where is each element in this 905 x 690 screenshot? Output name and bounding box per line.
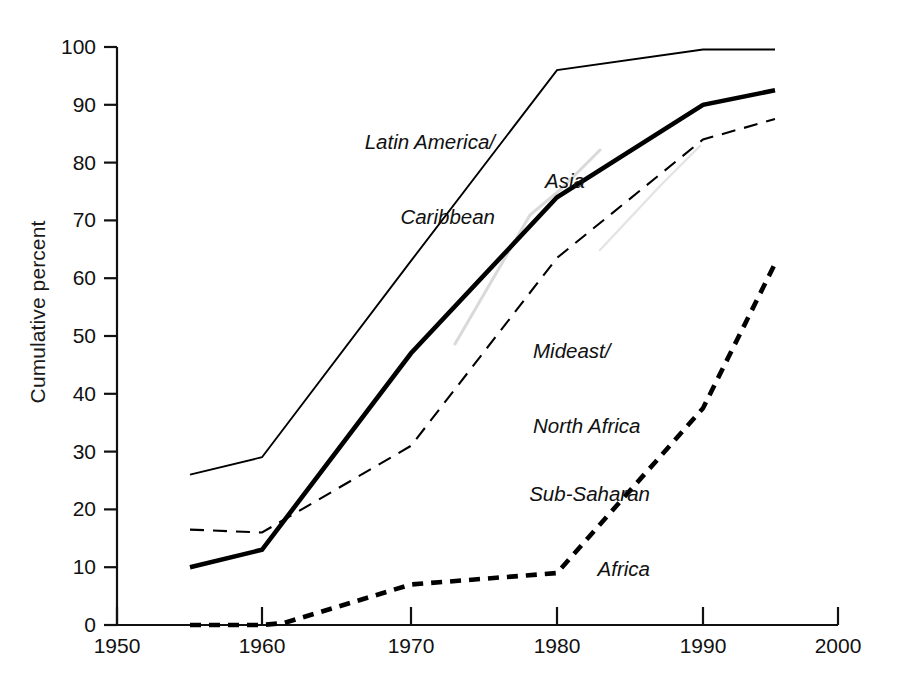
- series-label-asia: Asia: [545, 118, 665, 243]
- y-tick-label-30: 30: [44, 440, 96, 464]
- series-label-asia-line1: Asia: [545, 168, 665, 193]
- y-axis-ticks: [104, 47, 117, 625]
- y-tick-label-50: 50: [44, 324, 96, 348]
- y-tick-label-60: 60: [44, 266, 96, 290]
- y-tick-label-90: 90: [44, 93, 96, 117]
- y-tick-label-40: 40: [44, 382, 96, 406]
- x-tick-label-1960: 1960: [222, 634, 302, 658]
- series-label-subsaharan-line1: Sub-Saharan: [455, 481, 650, 506]
- y-tick-label-20: 20: [44, 497, 96, 521]
- x-tick-label-1950: 1950: [77, 634, 157, 658]
- series-label-latin-america-line1: Latin America/: [300, 129, 495, 154]
- x-tick-label-1980: 1980: [517, 634, 597, 658]
- series-label-latin-america-line2: Caribbean: [300, 204, 495, 229]
- y-tick-label-70: 70: [44, 208, 96, 232]
- series-label-latin-america-caribbean: Latin America/ Caribbean: [300, 79, 495, 279]
- x-tick-label-1990: 1990: [663, 634, 743, 658]
- y-tick-label-10: 10: [44, 555, 96, 579]
- x-tick-label-2000: 2000: [798, 634, 878, 658]
- x-tick-label-1970: 1970: [371, 634, 451, 658]
- series-label-subsaharan-line2: Africa: [455, 556, 650, 581]
- y-tick-label-100: 100: [34, 35, 96, 59]
- series-label-mideast-line1: Mideast/: [533, 338, 733, 363]
- chart-figure: Cumulative percent 0 10 20 30 40 50 60 7…: [0, 0, 905, 690]
- y-tick-label-80: 80: [44, 151, 96, 175]
- series-label-sub-saharan-africa: Sub-Saharan Africa: [455, 431, 650, 631]
